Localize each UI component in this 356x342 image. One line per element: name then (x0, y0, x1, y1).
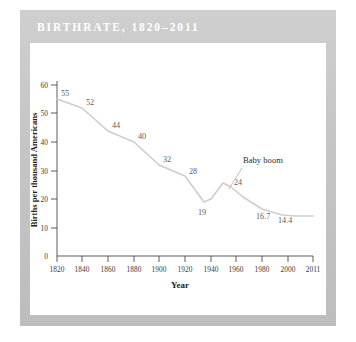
x-axis-title: Year (171, 280, 189, 290)
y-axis-title: Births per thousand Americans (30, 112, 39, 227)
y-tick-40: 40 (41, 138, 49, 147)
x-tick-1840: 1840 (75, 265, 90, 274)
data-label-40: 40 (138, 132, 146, 141)
data-label-14-4: 14.4 (278, 216, 292, 225)
x-axis-tick-labels: 1820 1840 1860 1880 1900 1920 1940 1960 … (50, 265, 321, 274)
y-tick-60: 60 (41, 81, 49, 90)
y-axis-ticks (51, 85, 57, 228)
x-tick-1940: 1940 (204, 265, 219, 274)
y-axis-tick-labels: 60 50 40 30 20 10 0 (41, 81, 49, 261)
x-tick-1820: 1820 (50, 265, 65, 274)
data-label-32: 32 (163, 155, 171, 164)
baby-boom-annotation: Baby boom (243, 155, 283, 165)
birthrate-line-chart: 60 50 40 30 20 10 0 Births per thousand … (30, 43, 326, 315)
x-tick-1880: 1880 (127, 265, 142, 274)
y-tick-10: 10 (41, 224, 49, 233)
x-axis-ticks (57, 256, 313, 262)
data-label-19: 19 (198, 208, 206, 217)
chart-panel: 60 50 40 30 20 10 0 Births per thousand … (30, 43, 326, 315)
x-tick-2000: 2000 (281, 265, 296, 274)
y-tick-50: 50 (41, 109, 49, 118)
x-tick-1960: 1960 (229, 265, 244, 274)
data-label-55: 55 (61, 89, 69, 98)
data-label-52: 52 (86, 98, 94, 107)
title-band: BIRTHRATE, 1820–2011 (20, 10, 336, 43)
data-label-28: 28 (189, 167, 197, 176)
y-tick-0: 0 (44, 252, 48, 261)
x-tick-1920: 1920 (178, 265, 193, 274)
y-tick-20: 20 (41, 195, 49, 204)
page-title: BIRTHRATE, 1820–2011 (37, 21, 200, 33)
x-tick-2011: 2011 (306, 265, 321, 274)
data-label-44: 44 (112, 121, 120, 130)
x-tick-1900: 1900 (152, 265, 167, 274)
y-tick-30: 30 (41, 167, 49, 176)
chart-screenshot: BIRTHRATE, 1820–2011 60 50 40 30 (0, 0, 356, 342)
x-tick-1860: 1860 (101, 265, 116, 274)
x-tick-1980: 1980 (255, 265, 270, 274)
data-label-16-7: 16.7 (256, 212, 270, 221)
